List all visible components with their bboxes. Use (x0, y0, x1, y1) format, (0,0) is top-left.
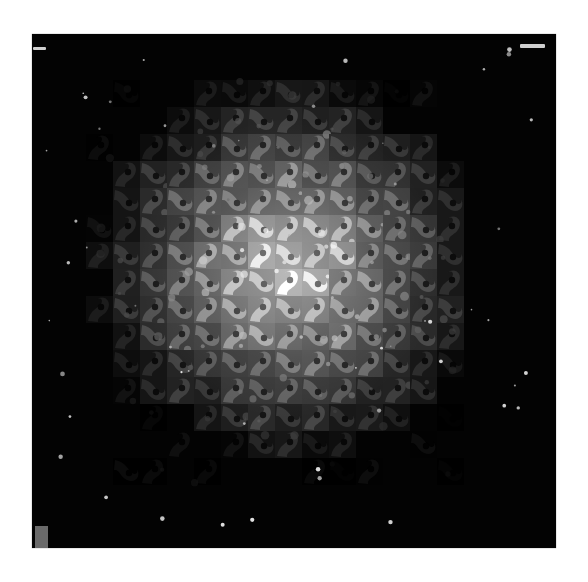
top-right-mark (520, 44, 545, 48)
tessellation-artwork (0, 0, 588, 582)
corner-square (35, 526, 48, 548)
top-left-mark (33, 47, 46, 50)
